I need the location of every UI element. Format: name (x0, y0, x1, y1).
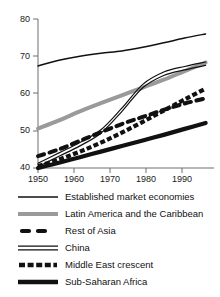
legend-item-label: Latin America and the Caribbean (65, 208, 203, 219)
line-double-swatch (18, 242, 58, 254)
x-axis-ticks (38, 168, 182, 173)
line-dashed-long-swatch (18, 225, 58, 237)
series-line (38, 34, 206, 66)
plot-area: 80 70 60 50 40 1950 1960 1970 1980 1990 (0, 0, 220, 185)
line-solid-thick-gray-swatch (18, 208, 58, 220)
series-layer (38, 34, 206, 168)
chart-figure: 80 70 60 50 40 1950 1960 1970 1980 1990 (0, 0, 220, 297)
y-axis-ticks (33, 19, 38, 168)
series-line (38, 63, 206, 129)
line-solid-thin-swatch (18, 191, 58, 203)
series-line (38, 123, 206, 168)
legend-item: Latin America and the Caribbean (18, 205, 218, 222)
line-dashed-short-swatch (18, 259, 58, 271)
legend-item-label: Established market economies (65, 191, 194, 202)
series-line (38, 62, 206, 167)
legend-item-label: Sub-Saharan Africa (65, 276, 147, 287)
chart-legend: Established market economies Latin Ameri… (18, 188, 218, 290)
legend-item-label: China (65, 242, 90, 253)
legend-item: China (18, 239, 218, 256)
legend-item: Sub-Saharan Africa (18, 273, 218, 290)
line-solid-thick-black-swatch (18, 276, 58, 288)
legend-item-label: Rest of Asia (65, 225, 116, 236)
chart-canvas (0, 0, 220, 185)
legend-item-label: Middle East crescent (65, 259, 153, 270)
legend-item: Established market economies (18, 188, 218, 205)
legend-item: Middle East crescent (18, 256, 218, 273)
legend-item: Rest of Asia (18, 222, 218, 239)
